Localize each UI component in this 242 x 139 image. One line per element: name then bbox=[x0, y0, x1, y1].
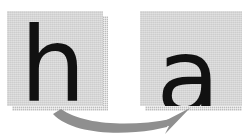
curved-right-arrow-icon bbox=[45, 106, 205, 139]
arrow-shaft bbox=[53, 109, 171, 133]
letter-tile-a-face: a bbox=[140, 11, 242, 106]
letter-glyph-h: h bbox=[20, 13, 86, 107]
letter-transformation-diagram: h a bbox=[0, 0, 242, 139]
letter-tile-h[interactable]: h bbox=[7, 11, 103, 106]
letter-tile-h-face: h bbox=[7, 11, 103, 106]
letter-glyph-a: a bbox=[156, 25, 220, 107]
letter-tile-a[interactable]: a bbox=[140, 11, 242, 106]
